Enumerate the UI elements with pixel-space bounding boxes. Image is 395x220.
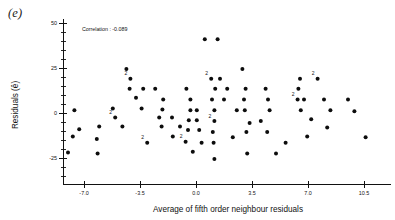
data-point	[197, 128, 201, 132]
duplicate-count-label: 2	[141, 134, 144, 140]
data-point	[161, 98, 165, 102]
duplicate-count-label: 2	[125, 70, 128, 76]
y-tick-label: 0	[54, 110, 57, 116]
data-point	[325, 125, 329, 129]
data-point	[212, 108, 216, 112]
data-point	[170, 116, 174, 120]
data-point	[128, 87, 132, 91]
data-point	[216, 37, 220, 41]
data-point	[97, 125, 101, 129]
data-point	[243, 108, 247, 112]
scatter-plot-figure: (e) -2502550-7.0-3.50.03.57.010.5 222222…	[0, 0, 395, 220]
data-point	[187, 118, 191, 122]
data-point	[96, 152, 100, 156]
data-point	[178, 125, 182, 129]
data-point	[195, 108, 199, 112]
data-point	[95, 137, 99, 141]
data-point	[66, 151, 70, 155]
data-point	[191, 150, 195, 154]
scatter-plot-canvas: -2502550-7.0-3.50.03.57.010.5 22222222 C…	[0, 0, 395, 220]
data-point	[72, 108, 76, 112]
data-point	[71, 134, 75, 138]
data-point	[200, 141, 204, 145]
data-point	[266, 98, 270, 102]
data-point	[231, 135, 235, 139]
data-point	[212, 119, 216, 123]
data-point	[302, 98, 306, 102]
data-point	[284, 141, 288, 145]
data-point	[296, 98, 300, 102]
x-tick-label: 3.5	[248, 190, 256, 196]
data-point	[160, 125, 164, 129]
data-point	[259, 119, 263, 123]
y-tick-label: -25	[49, 155, 57, 161]
data-point	[171, 134, 175, 138]
data-point	[212, 157, 216, 161]
data-point	[157, 116, 161, 120]
data-point	[242, 98, 246, 102]
data-point	[346, 98, 350, 102]
data-point	[209, 77, 213, 81]
data-point	[184, 87, 188, 91]
duplicate-count-label: 2	[109, 109, 112, 115]
data-point	[309, 117, 313, 121]
x-tick-label: -3.5	[135, 190, 144, 196]
data-point	[352, 109, 356, 113]
data-point	[134, 96, 138, 100]
x-tick-label: 0.0	[192, 190, 200, 196]
data-point	[322, 98, 326, 102]
data-point	[140, 107, 144, 111]
data-point	[299, 108, 303, 112]
data-point	[218, 77, 222, 81]
data-point	[265, 130, 269, 134]
duplicate-count-labels-group: 22222222	[109, 70, 314, 140]
x-tick-label: 10.5	[359, 190, 370, 196]
data-point	[248, 121, 252, 125]
data-point	[211, 130, 215, 134]
data-point	[113, 116, 117, 120]
tick-labels-group: -2502550-7.0-3.50.03.57.010.5	[49, 20, 369, 196]
duplicate-count-label: 2	[292, 91, 295, 97]
data-point	[240, 67, 244, 71]
data-point	[141, 87, 145, 91]
y-axis-title: Residuals (ê)	[11, 81, 20, 130]
data-point	[188, 108, 192, 112]
data-point	[145, 141, 149, 145]
data-point	[203, 37, 207, 41]
data-point	[210, 98, 214, 102]
data-point	[305, 134, 309, 138]
data-point	[268, 108, 272, 112]
data-point	[316, 77, 320, 81]
duplicate-count-label: 2	[312, 70, 315, 76]
data-point	[296, 87, 300, 91]
duplicate-count-label: 2	[180, 133, 183, 139]
data-point	[160, 107, 164, 111]
data-point	[186, 128, 190, 132]
data-point	[153, 87, 157, 91]
correlation-annotation: Correlation : -0.089	[82, 26, 127, 32]
data-point	[225, 87, 229, 91]
data-point	[195, 118, 199, 122]
data-point	[244, 130, 248, 134]
data-point	[235, 108, 239, 112]
data-point	[184, 140, 188, 144]
duplicate-count-label: 2	[209, 113, 212, 119]
duplicate-count-label: 2	[205, 70, 208, 76]
data-point	[328, 108, 332, 112]
data-point	[245, 152, 249, 156]
y-tick-label: 25	[51, 65, 57, 71]
x-tick-label: -7.0	[79, 190, 88, 196]
data-point	[244, 87, 248, 91]
x-axis-title: Average of fifth order neighbour residua…	[153, 205, 303, 214]
x-tick-label: 7.0	[304, 190, 312, 196]
data-point	[264, 87, 268, 91]
axes-group	[63, 19, 391, 184]
data-point	[274, 152, 278, 156]
y-tick-label: 50	[51, 20, 57, 26]
data-point	[212, 141, 216, 145]
data-point	[213, 87, 217, 91]
data-point	[77, 127, 81, 131]
data-point	[222, 98, 226, 102]
data-point	[128, 77, 132, 81]
data-point	[298, 77, 302, 81]
